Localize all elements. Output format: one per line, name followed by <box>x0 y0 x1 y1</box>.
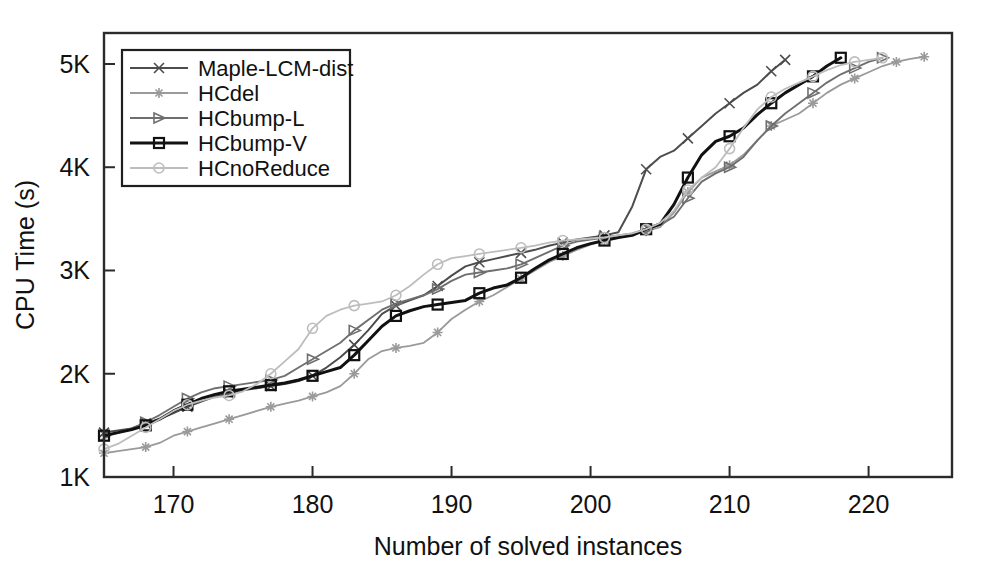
data-marker <box>391 343 401 353</box>
data-marker <box>349 340 359 350</box>
legend-label: HCbump-L <box>198 106 304 131</box>
chart-figure: 1701801902002102201K2K3K4K5KNumber of so… <box>0 0 984 572</box>
data-marker <box>154 88 164 98</box>
x-axis-label: Number of solved instances <box>374 532 682 560</box>
x-tick-label: 180 <box>292 490 334 518</box>
legend-label: Maple-LCM-dist <box>198 56 353 81</box>
data-marker <box>919 52 929 62</box>
data-marker <box>182 427 192 437</box>
data-marker <box>308 391 318 401</box>
x-tick-label: 170 <box>153 490 195 518</box>
y-tick-label: 4K <box>59 153 90 181</box>
y-tick-label: 5K <box>59 50 90 78</box>
legend-label: HCdel <box>198 81 259 106</box>
x-tick-label: 200 <box>570 490 612 518</box>
data-marker <box>266 402 276 412</box>
data-marker <box>349 369 359 379</box>
data-marker <box>808 98 818 108</box>
y-axis-label: CPU Time (s) <box>11 180 39 330</box>
legend-label: HCnoReduce <box>198 156 330 181</box>
data-marker <box>725 98 735 108</box>
y-tick-label: 2K <box>59 360 90 388</box>
y-tick-label: 1K <box>59 463 90 491</box>
data-marker <box>141 442 151 452</box>
data-marker <box>780 55 790 65</box>
x-tick-label: 190 <box>431 490 473 518</box>
x-tick-label: 220 <box>848 490 890 518</box>
data-marker <box>766 66 776 76</box>
legend: Maple-LCM-distHCdelHCbump-LHCbump-VHCnoR… <box>122 50 353 186</box>
data-marker <box>433 327 443 337</box>
legend-label: HCbump-V <box>198 131 307 156</box>
data-marker <box>224 414 234 424</box>
y-tick-label: 3K <box>59 256 90 284</box>
cpu-time-cactus-plot: 1701801902002102201K2K3K4K5KNumber of so… <box>0 0 984 572</box>
data-marker <box>850 73 860 83</box>
data-marker <box>683 133 693 143</box>
x-tick-label: 210 <box>709 490 751 518</box>
data-marker <box>891 57 901 67</box>
data-marker <box>641 164 651 174</box>
